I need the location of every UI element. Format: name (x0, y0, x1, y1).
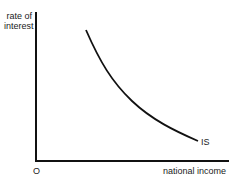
y-axis-label: rate of interest (4, 11, 32, 31)
y-axis-label-line1: rate of (4, 11, 32, 21)
curve-label: IS (201, 137, 210, 147)
is-diagram (0, 0, 242, 188)
is-curve (86, 30, 198, 141)
y-axis-label-line2: interest (4, 21, 32, 31)
x-axis-label: national income (163, 166, 226, 176)
origin-label: O (33, 166, 40, 176)
